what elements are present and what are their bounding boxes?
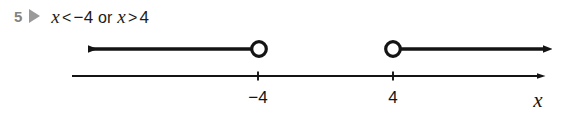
open-circle-endpoint-positive-four — [386, 42, 401, 57]
problem-header: 5 x<−4 or x>4 — [14, 4, 149, 28]
expression-var-2: x — [117, 6, 126, 27]
inequality-numberline-figure: 5 x<−4 or x>4 — [0, 0, 569, 119]
left-ray-group — [88, 42, 266, 57]
open-circle-endpoint-negative-four — [252, 42, 267, 57]
play-triangle-icon — [29, 9, 40, 23]
axis-label-x: x — [532, 88, 543, 112]
tick-label-positive-four: 4 — [388, 88, 397, 107]
number-line-graph: −4 4 x — [0, 28, 569, 119]
tick-label-negative-four: −4 — [248, 88, 267, 107]
problem-number: 5 — [14, 9, 22, 24]
expression-conjunction: or — [93, 9, 117, 26]
inequality-expression: x<−4 or x>4 — [51, 7, 149, 26]
expression-value-1: −4 — [74, 8, 94, 27]
axis-group — [72, 72, 537, 81]
right-ray-group — [386, 42, 543, 57]
expression-relation-2: > — [126, 9, 140, 26]
expression-value-2: 4 — [139, 8, 149, 27]
expression-relation-1: < — [60, 9, 74, 26]
expression-var-1: x — [51, 6, 60, 27]
